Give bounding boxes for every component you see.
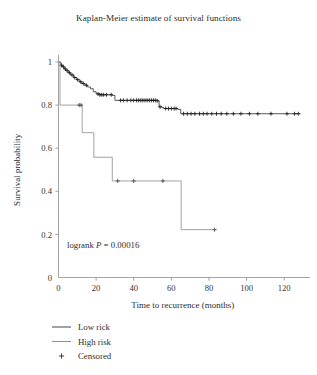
series-high-risk <box>59 62 217 232</box>
kaplan-meier-figure: Kaplan-Meier estimate of survival functi… <box>0 0 317 375</box>
survival-curve <box>59 62 301 114</box>
legend-item[interactable]: Censored <box>59 351 112 361</box>
x-tick-label: 100 <box>240 283 253 293</box>
y-tick-label: 1 <box>48 57 52 67</box>
legend-item[interactable]: Low rick <box>52 322 111 332</box>
y-axis-ticks: 00.20.40.60.81 <box>41 57 58 283</box>
legend-label: Low rick <box>78 322 111 332</box>
y-tick-label: 0.4 <box>41 186 52 196</box>
y-tick-label: 0.6 <box>41 143 52 153</box>
legend-label: High risk <box>78 337 112 347</box>
series-low-risk <box>59 62 301 116</box>
y-axis-title: Survival probability <box>12 133 22 206</box>
survival-curve <box>59 62 216 230</box>
x-tick-label: 60 <box>167 283 176 293</box>
survival-plot: 00.20.40.60.81020406080100120Time to rec… <box>0 0 317 375</box>
logrank-text: logrank P = 0.00016 <box>67 240 140 250</box>
y-tick-label: 0 <box>48 273 52 283</box>
y-tick-label: 0.8 <box>41 100 52 110</box>
legend-item[interactable]: High risk <box>52 337 112 347</box>
x-tick-label: 0 <box>56 283 60 293</box>
censor-marks <box>60 63 301 115</box>
legend-label: Censored <box>78 351 112 361</box>
censor-marks <box>77 103 217 232</box>
y-tick-label: 0.2 <box>41 230 52 240</box>
x-tick-label: 80 <box>205 283 214 293</box>
legend: Low rickHigh riskCensored <box>52 322 112 361</box>
x-axis-ticks: 020406080100120 <box>56 278 290 294</box>
x-tick-label: 40 <box>129 283 138 293</box>
logrank-annotation: logrank P = 0.00016 <box>67 240 140 250</box>
x-axis-title: Time to recurrence (months) <box>131 300 234 310</box>
x-tick-label: 20 <box>92 283 101 293</box>
x-tick-label: 120 <box>278 283 291 293</box>
